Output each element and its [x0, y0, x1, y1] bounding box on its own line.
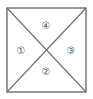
region-label-right: ③: [63, 43, 79, 59]
region-label-bottom: ②: [38, 64, 54, 80]
region-label-left: ①: [13, 43, 29, 59]
diagram-canvas: ④ ① ③ ②: [0, 0, 93, 99]
region-label-top: ④: [38, 18, 54, 34]
